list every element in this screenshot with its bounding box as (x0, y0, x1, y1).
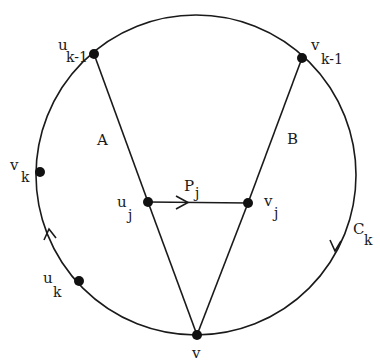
node-v-k-1 (297, 53, 307, 63)
label-u-k-1-sub: k-1 (66, 49, 88, 65)
label-b: B (287, 130, 298, 148)
label-v-k: v (9, 156, 19, 174)
node-u-j (143, 197, 153, 207)
path-pj (148, 202, 248, 203)
edge-uj-v (148, 202, 197, 335)
node-u-k (74, 276, 84, 286)
label-v-k-sub: k (21, 169, 30, 185)
label-ck-sub: k (364, 232, 373, 248)
label-a: A (96, 131, 108, 149)
node-v (192, 330, 202, 340)
label-v-j: v (263, 192, 273, 210)
node-v-j (243, 198, 253, 208)
label-u-j-sub: j (126, 207, 132, 223)
cycle-diagram: u k-1 v k-1 v k u k u j v j v A B P j C … (0, 0, 380, 363)
label-v-k-1: v (310, 36, 320, 54)
label-pj: P (184, 177, 194, 195)
edge-vj-v (197, 203, 248, 335)
edge-a (94, 54, 148, 202)
label-u-k: u (43, 269, 53, 287)
label-ck: C (353, 220, 364, 238)
label-v-k-1-sub: k-1 (321, 51, 343, 67)
label-u-j: u (117, 193, 127, 211)
node-v-k (35, 167, 45, 177)
label-u-k-sub: k (53, 284, 62, 300)
label-v-j-sub: j (272, 205, 278, 221)
node-u-k-1 (89, 49, 99, 59)
label-v: v (191, 344, 201, 362)
